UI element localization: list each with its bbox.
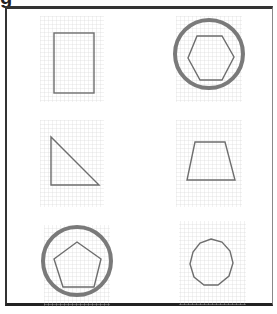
grid-paper (179, 221, 246, 305)
panel-rectangle (40, 16, 104, 102)
grid-paper (176, 120, 242, 207)
panel-triangle (40, 120, 104, 207)
panel-trapezoid (176, 120, 242, 207)
panel-pentagon (43, 225, 111, 307)
panel-hexagon (175, 16, 243, 102)
panel-nonagon (179, 221, 246, 305)
grid-paper (40, 120, 104, 207)
shapes-figure (0, 0, 277, 314)
